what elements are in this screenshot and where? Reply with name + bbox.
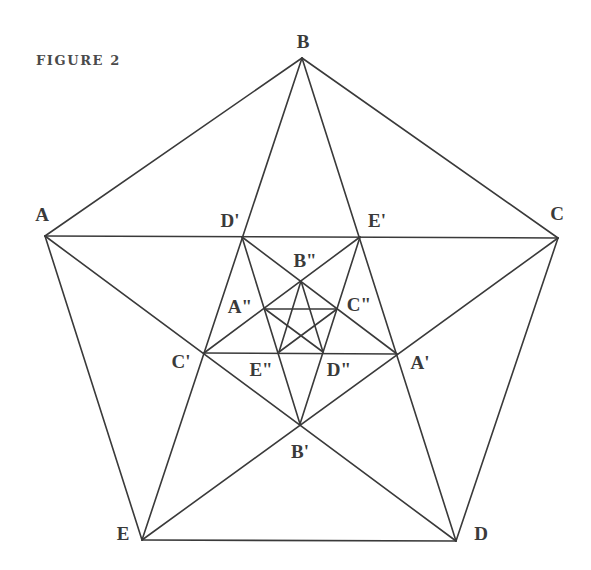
- segment-a-b: [45, 58, 302, 236]
- segment-d-prime-b-prime: [242, 237, 300, 424]
- segment-b-e: [142, 58, 302, 540]
- segment-b-double-prime-e-double-prime: [279, 281, 301, 352]
- segment-b-double-prime-d-double-prime: [301, 281, 323, 352]
- segment-d-e: [142, 540, 456, 541]
- vertex-label-d-double-prime: D": [327, 359, 351, 380]
- segment-d-prime-a-prime: [242, 237, 397, 354]
- diagram-edges: [45, 58, 558, 541]
- segment-c-double-prime-e-double-prime: [279, 309, 337, 352]
- vertex-label-a: A: [35, 204, 49, 225]
- segment-e-a: [45, 236, 142, 540]
- vertex-label-c-prime: C': [172, 351, 191, 372]
- vertex-label-e-prime: E': [368, 210, 386, 231]
- vertex-label-b-double-prime: B": [293, 250, 316, 271]
- segment-c-prime-a-prime: [204, 353, 397, 354]
- segment-c-e: [142, 238, 558, 540]
- nested-pentagram-diagram: ABCDEA'B'C'D'E'A"B"C"D"E": [0, 0, 591, 570]
- vertex-label-d: D: [474, 523, 488, 544]
- vertex-label-d-prime: D': [221, 210, 240, 231]
- vertex-label-a-double-prime: A": [228, 296, 252, 317]
- segment-a-c: [45, 236, 558, 238]
- segment-a-d: [45, 236, 456, 541]
- vertex-label-b: B: [297, 31, 310, 52]
- segment-c-d: [456, 238, 558, 541]
- vertex-label-e-double-prime: E": [249, 359, 272, 380]
- segment-b-c: [302, 58, 558, 238]
- vertex-label-e: E: [117, 523, 130, 544]
- vertex-label-b-prime: B': [291, 441, 309, 462]
- vertex-label-c: C: [550, 203, 564, 224]
- vertex-label-c-double-prime: C": [347, 294, 371, 315]
- vertex-label-a-prime: A': [411, 352, 430, 373]
- segment-a-double-prime-d-double-prime: [265, 309, 323, 352]
